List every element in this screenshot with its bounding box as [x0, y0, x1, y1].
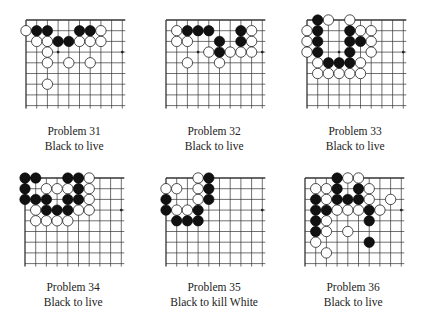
- black-stone: [236, 26, 246, 36]
- black-stone: [73, 194, 83, 204]
- black-stone: [204, 26, 214, 36]
- white-stone: [321, 248, 331, 258]
- black-stone: [345, 47, 355, 57]
- star-point: [197, 51, 200, 54]
- black-stone: [41, 205, 51, 215]
- black-stone: [311, 226, 321, 236]
- white-stone: [343, 173, 353, 183]
- white-stone: [321, 226, 331, 236]
- white-stone: [172, 36, 182, 46]
- white-stone: [313, 58, 323, 68]
- white-stone: [63, 184, 73, 194]
- white-stone: [84, 205, 94, 215]
- white-stone: [182, 205, 192, 215]
- white-stone: [364, 184, 374, 194]
- problem-36: Problem 36Black to live: [297, 170, 413, 310]
- white-stone: [41, 184, 51, 194]
- black-stone: [313, 36, 323, 46]
- star-point: [338, 51, 341, 54]
- problem-title: Problem 33: [299, 124, 411, 139]
- black-stone: [364, 216, 374, 226]
- white-stone: [313, 68, 323, 78]
- white-stone: [343, 226, 353, 236]
- problem-title: Problem 32: [158, 124, 270, 139]
- white-stone: [42, 58, 52, 68]
- white-stone: [31, 205, 41, 215]
- problem-31: Problem 31Black to live: [18, 12, 134, 152]
- problem-title: Problem 31: [18, 124, 130, 139]
- go-board: [158, 170, 274, 276]
- white-stone: [85, 36, 95, 46]
- problem-task: Black to live: [297, 295, 409, 310]
- black-stone: [42, 26, 52, 36]
- white-stone: [225, 47, 235, 57]
- white-stone: [193, 184, 203, 194]
- black-stone: [73, 184, 83, 194]
- go-board: [158, 12, 274, 118]
- white-stone: [161, 184, 171, 194]
- black-stone: [332, 184, 342, 194]
- star-point: [400, 209, 403, 212]
- black-stone: [85, 26, 95, 36]
- white-stone: [355, 68, 365, 78]
- white-stone: [84, 184, 94, 194]
- white-stone: [353, 205, 363, 215]
- black-stone: [355, 36, 365, 46]
- white-stone: [64, 58, 74, 68]
- white-stone: [321, 184, 331, 194]
- black-stone: [63, 173, 73, 183]
- white-stone: [42, 47, 52, 57]
- black-stone: [364, 205, 374, 215]
- white-stone: [343, 205, 353, 215]
- black-stone: [193, 205, 203, 215]
- black-stone: [364, 237, 374, 247]
- go-board: [297, 170, 413, 276]
- black-stone: [161, 194, 171, 204]
- problem-caption: Problem 31Black to live: [18, 124, 130, 154]
- white-stone: [214, 58, 224, 68]
- white-stone: [334, 68, 344, 78]
- white-stone: [84, 194, 94, 204]
- black-stone: [63, 205, 73, 215]
- white-stone: [85, 58, 95, 68]
- white-stone: [366, 26, 376, 36]
- problem-32: Problem 32Black to live: [158, 12, 274, 152]
- white-stone: [323, 15, 333, 25]
- problem-task: Black to live: [18, 139, 130, 154]
- white-stone: [193, 194, 203, 204]
- black-stone: [182, 216, 192, 226]
- white-stone: [246, 47, 256, 57]
- problem-title: Problem 34: [17, 280, 129, 295]
- star-point: [121, 51, 124, 54]
- problem-task: Black to live: [158, 139, 270, 154]
- black-stone: [31, 194, 41, 204]
- white-stone: [182, 58, 192, 68]
- white-stone: [321, 216, 331, 226]
- problem-title: Problem 35: [158, 280, 270, 295]
- white-stone: [84, 173, 94, 183]
- problem-caption: Problem 34Black to live: [17, 280, 129, 310]
- black-stone: [313, 26, 323, 36]
- black-stone: [345, 36, 355, 46]
- black-stone: [32, 26, 42, 36]
- white-stone: [321, 194, 331, 204]
- black-stone: [31, 173, 41, 183]
- problem-caption: Problem 35Black to kill White: [158, 280, 270, 310]
- white-stone: [366, 36, 376, 46]
- black-stone: [311, 216, 321, 226]
- black-stone: [52, 205, 62, 215]
- go-board: [299, 12, 415, 118]
- white-stone: [96, 26, 106, 36]
- white-stone: [375, 205, 385, 215]
- white-stone: [182, 36, 192, 46]
- star-point: [120, 209, 123, 212]
- white-stone: [355, 58, 365, 68]
- white-stone: [385, 194, 395, 204]
- black-stone: [193, 216, 203, 226]
- black-stone: [332, 194, 342, 204]
- problem-task: Black to live: [17, 295, 129, 310]
- white-stone: [366, 47, 376, 57]
- white-stone: [172, 205, 182, 215]
- white-stone: [302, 26, 312, 36]
- black-stone: [64, 36, 74, 46]
